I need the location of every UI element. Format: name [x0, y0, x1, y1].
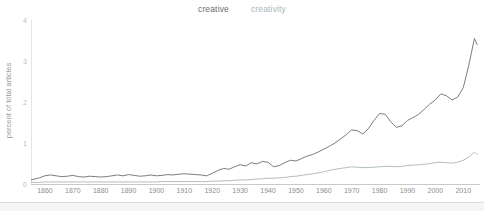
x-tick-1870: 1870	[65, 187, 81, 194]
legend-item-creativity[interactable]: creativity	[251, 4, 286, 14]
x-tick-1930: 1930	[232, 187, 248, 194]
y-axis-title: percent of total articles	[4, 41, 13, 161]
x-tick-1990: 1990	[400, 187, 416, 194]
y-tick-4: 4	[17, 17, 27, 24]
x-tick-1880: 1880	[93, 187, 109, 194]
line-series-creativity	[31, 152, 477, 182]
chart-container: creative creativity 01234 percent of tot…	[0, 0, 484, 211]
x-axis-line	[31, 184, 480, 185]
y-tick-1: 1	[17, 140, 27, 147]
x-tick-1920: 1920	[204, 187, 220, 194]
series-lines	[31, 20, 480, 184]
x-tick-1910: 1910	[177, 187, 193, 194]
x-tick-1970: 1970	[344, 187, 360, 194]
x-tick-2010: 2010	[455, 187, 471, 194]
x-tick-1950: 1950	[288, 187, 304, 194]
x-axis-tick-labels: 1860187018801890190019101920193019401950…	[0, 187, 484, 199]
x-tick-1940: 1940	[260, 187, 276, 194]
chart-legend: creative creativity	[0, 2, 484, 16]
y-tick-3: 3	[17, 58, 27, 65]
x-tick-1860: 1860	[37, 187, 53, 194]
x-tick-1980: 1980	[372, 187, 388, 194]
y-tick-2: 2	[17, 99, 27, 106]
line-series-creative	[31, 38, 477, 179]
x-tick-1900: 1900	[149, 187, 165, 194]
x-tick-2000: 2000	[428, 187, 444, 194]
x-tick-1890: 1890	[121, 187, 137, 194]
legend-item-creative[interactable]: creative	[198, 4, 229, 14]
x-tick-1960: 1960	[316, 187, 332, 194]
plot-area	[31, 20, 480, 184]
bottom-band	[0, 203, 484, 211]
